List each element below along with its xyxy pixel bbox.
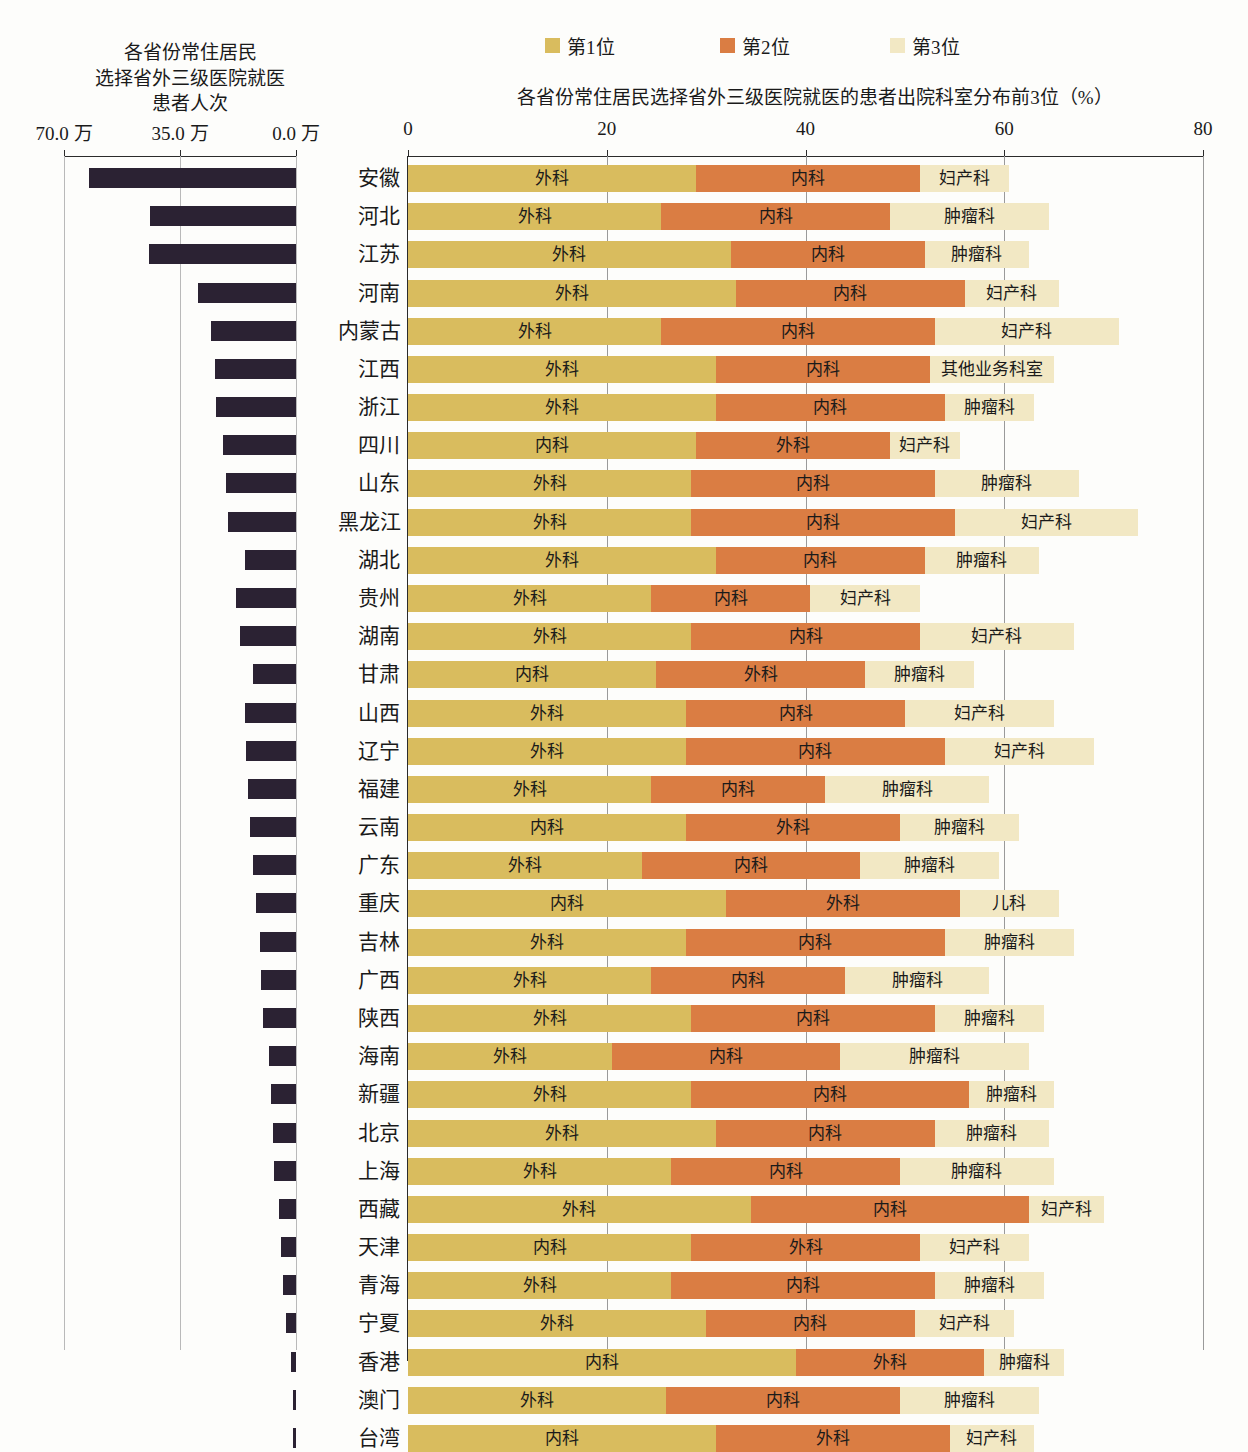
category-label: 澳门 [338, 1387, 400, 1414]
left-bar [279, 1199, 296, 1219]
bar-segment-label: 内科 [661, 318, 934, 345]
bar-segment-label: 内科 [671, 1158, 900, 1185]
category-label: 青海 [338, 1272, 400, 1299]
table-row: 外科内科妇产科 [408, 280, 1203, 307]
bar-segment-label: 肿瘤科 [890, 203, 1049, 230]
table-row: 外科内科肿瘤科 [408, 1387, 1203, 1414]
table-row: 外科内科肿瘤科 [408, 241, 1203, 268]
category-label: 宁夏 [338, 1310, 400, 1337]
table-row: 外科内科肿瘤科 [408, 1272, 1203, 1299]
category-label: 江西 [338, 356, 400, 383]
table-row: 外科内科肿瘤科 [408, 547, 1203, 574]
table-row: 外科内科肿瘤科 [408, 203, 1203, 230]
left-bar [286, 1313, 296, 1333]
bar-segment-label: 外科 [408, 738, 686, 765]
category-label: 浙江 [338, 394, 400, 421]
bar-segment-label: 肿瘤科 [900, 1387, 1039, 1414]
bar-segment-label: 妇产科 [955, 509, 1139, 536]
category-label: 河南 [338, 280, 400, 307]
bar-segment-label: 肿瘤科 [900, 1158, 1054, 1185]
category-label: 重庆 [338, 890, 400, 917]
bar-segment-label: 内科 [671, 1272, 934, 1299]
right-tick-label-3: 60 [995, 118, 1014, 140]
table-row: 内科外科肿瘤科 [408, 661, 1203, 688]
bar-segment-label: 外科 [408, 776, 651, 803]
category-label: 湖南 [338, 623, 400, 650]
bar-segment-label: 外科 [408, 547, 716, 574]
bar-segment-label: 内科 [706, 1310, 915, 1337]
bar-segment-label: 肿瘤科 [969, 1081, 1053, 1108]
bar-segment-label: 外科 [408, 623, 691, 650]
category-labels: 安徽河北江苏河南内蒙古江西浙江四川山东黑龙江湖北贵州湖南甘肃山西辽宁福建云南广东… [338, 156, 400, 1356]
category-label: 广东 [338, 852, 400, 879]
table-row: 外科内科妇产科 [408, 1196, 1203, 1223]
bar-segment-label: 肿瘤科 [945, 394, 1034, 421]
left-bar [283, 1275, 296, 1295]
left-panel: 70.0 万35.0 万0.0 万 [64, 118, 314, 1358]
bar-segment-label: 肿瘤科 [865, 661, 974, 688]
bar-segment-label: 外科 [408, 356, 716, 383]
bar-segment-label: 内科 [736, 280, 965, 307]
table-row: 外科内科肿瘤科 [408, 1081, 1203, 1108]
right-panel: 020406080 安徽河北江苏河南内蒙古江西浙江四川山东黑龙江湖北贵州湖南甘肃… [408, 118, 1208, 1358]
bar-segment-label: 妇产科 [965, 280, 1059, 307]
bar-segment-label: 外科 [408, 280, 736, 307]
legend-label-3: 第3位 [912, 32, 960, 59]
table-row: 外科内科其他业务科室 [408, 356, 1203, 383]
bar-segment-label: 肿瘤科 [860, 852, 999, 879]
bar-segment-label: 妇产科 [935, 318, 1119, 345]
legend-item-1[interactable]: 第1位 [545, 32, 615, 59]
bar-segment-label: 外科 [408, 203, 661, 230]
right-tick-label-0: 0 [403, 118, 413, 140]
bar-segment-label: 内科 [691, 470, 934, 497]
legend-swatch-icon-1 [545, 38, 560, 53]
bar-segment-label: 外科 [656, 661, 865, 688]
left-bar [211, 321, 296, 341]
left-panel-title-line-1: 各省份常住居民 [40, 40, 340, 66]
bar-segment-label: 外科 [408, 470, 691, 497]
table-row: 外科内科妇产科 [408, 700, 1203, 727]
legend-item-3[interactable]: 第3位 [890, 32, 960, 59]
bar-segment-label: 外科 [408, 394, 716, 421]
right-tick-label-2: 40 [796, 118, 815, 140]
left-bar [226, 473, 296, 493]
bar-segment-label: 肿瘤科 [935, 1005, 1044, 1032]
bar-segment-label: 内科 [686, 738, 944, 765]
bar-segment-label: 外科 [408, 165, 696, 192]
bar-segment-label: 外科 [408, 318, 661, 345]
bar-segment-label: 肿瘤科 [984, 1349, 1064, 1376]
left-panel-title-line-3: 患者人次 [40, 91, 340, 117]
bar-segment-label: 肿瘤科 [935, 1272, 1044, 1299]
left-gridline-2 [296, 156, 297, 1350]
left-bar [273, 1123, 296, 1143]
right-tick-label-1: 20 [597, 118, 616, 140]
bar-segment-label: 外科 [408, 1387, 666, 1414]
bar-segment-label: 肿瘤科 [925, 547, 1039, 574]
category-label: 山东 [338, 470, 400, 497]
bar-segment-label: 外科 [686, 814, 900, 841]
left-bar [256, 893, 296, 913]
table-row: 外科内科肿瘤科 [408, 394, 1203, 421]
bar-segment-label: 妇产科 [920, 165, 1009, 192]
left-bar [261, 970, 296, 990]
left-bar [216, 397, 296, 417]
bar-segment-label: 外科 [408, 1310, 706, 1337]
category-label: 福建 [338, 776, 400, 803]
table-row: 内科外科妇产科 [408, 1234, 1203, 1261]
table-row: 外科内科肿瘤科 [408, 852, 1203, 879]
bar-segment-label: 肿瘤科 [935, 1120, 1049, 1147]
bar-segment-label: 肿瘤科 [845, 967, 989, 994]
bar-segment-label: 肿瘤科 [945, 929, 1074, 956]
category-label: 新疆 [338, 1081, 400, 1108]
bar-segment-label: 外科 [408, 929, 686, 956]
left-bar [149, 244, 296, 264]
bar-segment-label: 妇产科 [915, 1310, 1014, 1337]
bar-segment-label: 内科 [408, 432, 696, 459]
table-row: 外科内科妇产科 [408, 623, 1203, 650]
category-label: 内蒙古 [338, 318, 400, 345]
bar-segment-label: 内科 [691, 623, 920, 650]
bar-segment-label: 外科 [408, 1158, 671, 1185]
legend-item-2[interactable]: 第2位 [720, 32, 790, 59]
bar-segment-label: 内科 [696, 165, 920, 192]
